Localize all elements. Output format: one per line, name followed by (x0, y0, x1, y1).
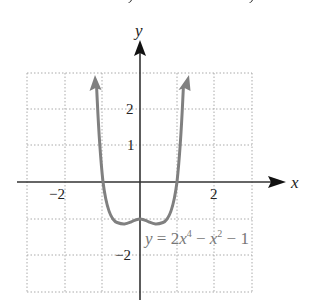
eq-const: 1 (240, 229, 249, 248)
eq-y: y (145, 229, 153, 248)
y-tick-label-2: 2 (126, 102, 134, 117)
y-tick-label-1: 1 (127, 138, 135, 153)
eq-minus1: − (192, 229, 210, 248)
clipped-text-fragments (128, 0, 253, 3)
eq-x1: x (179, 229, 187, 248)
y-tick-label-neg2: −2 (115, 248, 131, 263)
eq-minus2: − (222, 229, 240, 248)
y-axis-label: y (135, 22, 143, 39)
graph-canvas (0, 0, 310, 305)
x-axis-label: x (291, 174, 299, 191)
eq-equals: = (153, 229, 171, 248)
axes (17, 52, 272, 300)
x-tick-label-2: 2 (210, 187, 218, 202)
eq-coef: 2 (171, 229, 180, 248)
equation-label: y = 2x4 − x2 − 1 (145, 229, 249, 247)
x-tick-label-neg2: −2 (49, 187, 65, 202)
